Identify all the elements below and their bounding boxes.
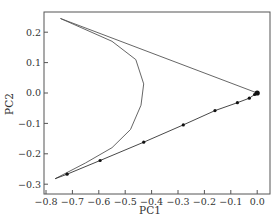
pca-chart: −0.8−0.7−0.6−0.5−0.4−0.3−0.2−0.10.0 0.20… [0, 0, 279, 219]
data-point-marker [99, 159, 102, 162]
upper-line [61, 19, 258, 94]
x-tick-label: −0.6 [87, 196, 110, 207]
y-tick-label: 0.2 [26, 27, 41, 38]
x-axis-label: PC1 [139, 204, 161, 216]
x-tick-label: −0.8 [34, 196, 57, 207]
x-tick-label: −0.7 [61, 196, 84, 207]
y-tick-label: −0.2 [18, 148, 41, 159]
y-tick-label: 0.1 [26, 57, 41, 68]
data-point-marker [248, 97, 251, 100]
lower-line-with-markers [55, 93, 257, 179]
x-tick-label: −0.5 [114, 196, 137, 207]
x-tick-label: −0.2 [193, 196, 216, 207]
data-point-marker [182, 123, 185, 126]
trajectory-curve [55, 19, 144, 179]
y-tick-label: 0.0 [26, 87, 41, 98]
x-tick-label: 0.0 [250, 196, 265, 207]
data-point-marker [236, 101, 239, 104]
data-point-marker [66, 173, 69, 176]
plot-area [55, 19, 260, 179]
x-tick-label: −0.3 [166, 196, 189, 207]
y-axis-label: PC2 [3, 93, 15, 115]
origin-cluster-marker [255, 90, 260, 95]
data-point-marker [213, 109, 216, 112]
y-axis-ticks: 0.20.10.0−0.1−0.2−0.3 [18, 27, 48, 190]
y-tick-label: −0.3 [18, 179, 41, 190]
data-point-marker [142, 141, 145, 144]
x-tick-label: −0.1 [219, 196, 242, 207]
y-tick-label: −0.1 [18, 118, 41, 129]
